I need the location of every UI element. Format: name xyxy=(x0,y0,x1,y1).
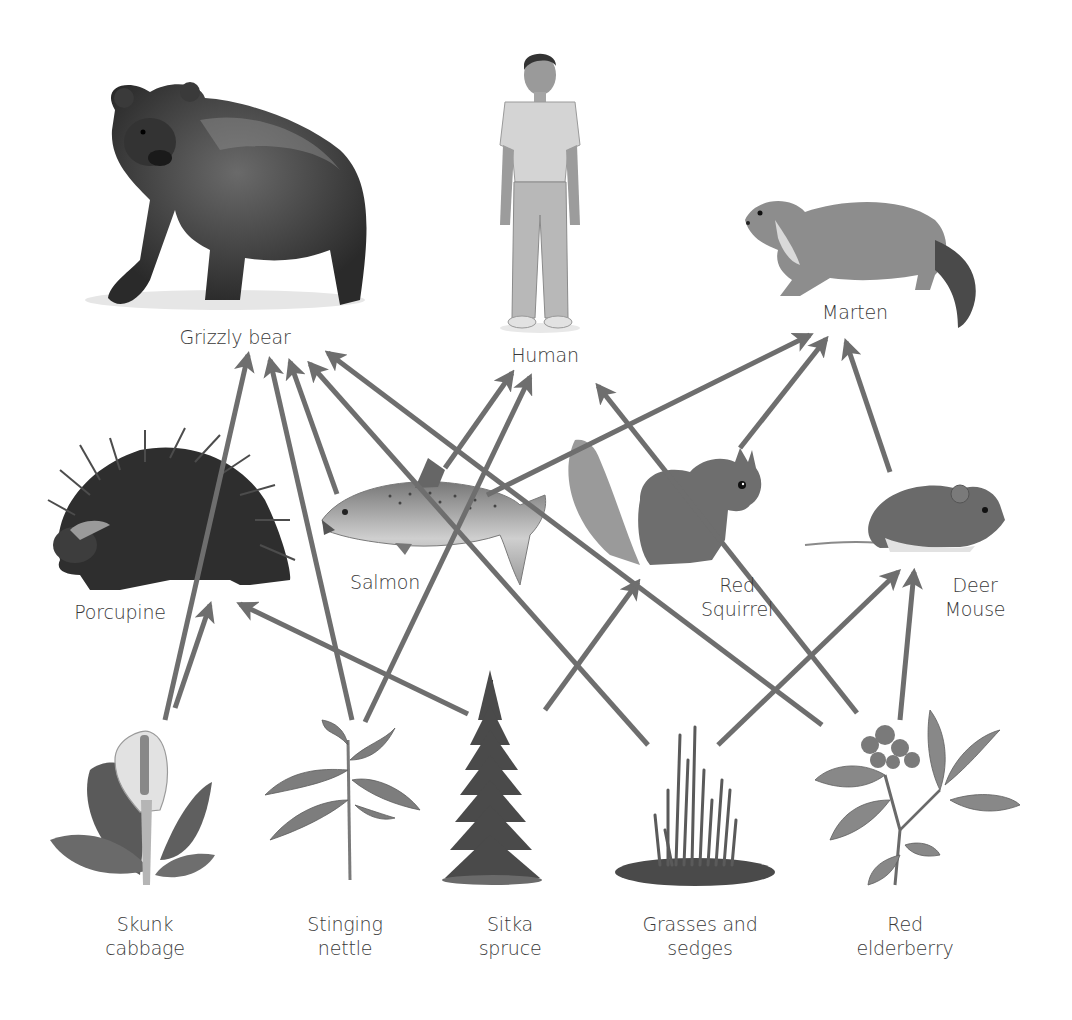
skunk-cabbage-illustration xyxy=(50,731,215,885)
red-elderberry-illustration xyxy=(815,710,1020,885)
arrow-red-elderberry-to-human xyxy=(598,386,857,713)
arrow-red-elderberry-to-deer-mouse xyxy=(900,572,914,720)
arrow-salmon-to-human xyxy=(445,373,512,468)
salmon-illustration xyxy=(322,458,546,585)
arrow-deer-mouse-to-marten xyxy=(846,342,890,472)
arrow-red-squirrel-to-marten xyxy=(740,339,826,448)
arrow-sitka-spruce-to-porcupine xyxy=(240,604,468,714)
red-squirrel-illustration xyxy=(568,440,761,565)
label-porcupine: Porcupine xyxy=(60,600,180,624)
label-stinging-nettle: Stinging nettle xyxy=(280,912,410,960)
label-red-squirrel: Red Squirrel xyxy=(682,573,792,621)
label-grizzly-bear: Grizzly bear xyxy=(160,325,310,349)
label-grasses-and-sedges: Grasses and sedges xyxy=(625,912,775,960)
label-skunk-cabbage: Skunk cabbage xyxy=(85,912,205,960)
label-marten: Marten xyxy=(800,300,910,324)
deer-mouse-illustration xyxy=(805,485,1005,552)
food-web-diagram xyxy=(0,0,1072,1020)
sitka-spruce-illustration xyxy=(442,670,542,885)
label-deer-mouse: Deer Mouse xyxy=(920,573,1030,621)
label-salmon: Salmon xyxy=(330,570,440,594)
stinging-nettle-illustration xyxy=(265,720,420,880)
label-human: Human xyxy=(490,343,600,367)
grizzly-bear-illustration xyxy=(85,82,367,310)
label-sitka-spruce: Sitka spruce xyxy=(455,912,565,960)
label-red-elderberry: Red elderberry xyxy=(840,912,970,960)
grasses-and-sedges-illustration xyxy=(615,727,775,886)
human-illustration xyxy=(500,54,580,333)
porcupine-illustration xyxy=(48,428,295,590)
